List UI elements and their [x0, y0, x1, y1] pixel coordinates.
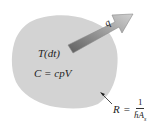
- equals-sign: =: [124, 103, 130, 115]
- resistance-equation: R = 1 h̄As: [113, 96, 146, 122]
- fraction-denominator: h̄As: [134, 109, 146, 122]
- resistance-fraction: 1 h̄As: [134, 97, 146, 122]
- resistance-symbol: R: [113, 103, 120, 115]
- fraction-numerator: 1: [136, 97, 145, 109]
- denominator-subscript: s: [144, 115, 146, 121]
- temperature-label: T(dt): [38, 48, 60, 59]
- capacitance-label: C = cpV: [34, 68, 71, 79]
- denominator-main: h̄A: [134, 110, 144, 120]
